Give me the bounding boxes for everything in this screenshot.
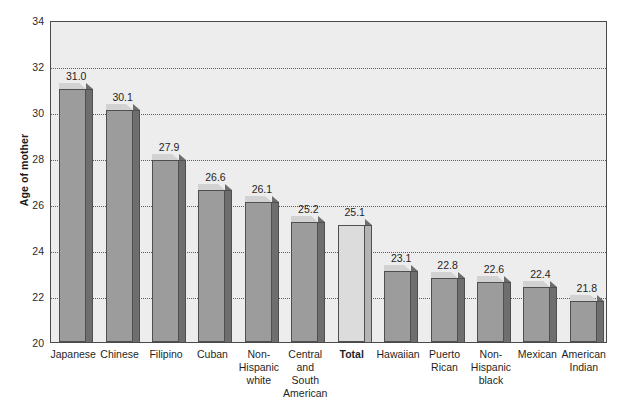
bar bbox=[570, 295, 597, 342]
bar-top-outline bbox=[291, 215, 318, 222]
bar-side-cap bbox=[133, 104, 140, 110]
bar bbox=[384, 265, 411, 342]
x-axis-category-label: AmericanIndian bbox=[555, 348, 613, 374]
x-axis-label-line: South bbox=[276, 374, 334, 387]
bar-top-outline bbox=[384, 264, 411, 271]
bar-value-label: 23.1 bbox=[375, 252, 427, 264]
bar-side-face bbox=[272, 202, 279, 342]
bar-front-face bbox=[477, 282, 504, 342]
y-axis-tick-label: 30 bbox=[0, 107, 44, 119]
bar-front-face bbox=[152, 160, 179, 342]
bar-front-face bbox=[198, 190, 225, 342]
x-axis-label-line: American bbox=[555, 348, 613, 361]
y-axis-tick-label: 34 bbox=[0, 15, 44, 27]
bar bbox=[523, 281, 550, 342]
bar-side-face bbox=[550, 287, 557, 342]
x-axis-label-line: American bbox=[276, 387, 334, 400]
bar-front-face bbox=[523, 287, 550, 342]
x-axis-label-line: Indian bbox=[555, 361, 613, 374]
bar-value-label: 25.2 bbox=[282, 203, 334, 215]
bar-value-label: 27.9 bbox=[143, 141, 195, 153]
bar-top-outline bbox=[59, 82, 86, 89]
bar-side-cap bbox=[318, 216, 325, 222]
y-axis-tick-label: 24 bbox=[0, 245, 44, 257]
bar-side-cap bbox=[504, 276, 511, 282]
bar-value-label: 26.1 bbox=[236, 183, 288, 195]
bar-front-face bbox=[384, 271, 411, 342]
bar bbox=[291, 216, 318, 342]
bar-value-label: 22.8 bbox=[422, 259, 474, 271]
bar-front-face bbox=[570, 301, 597, 342]
bar-top-outline bbox=[198, 183, 225, 190]
bar-side-cap bbox=[365, 219, 372, 225]
bar bbox=[245, 196, 272, 342]
bar bbox=[431, 272, 458, 342]
bar-front-face bbox=[106, 110, 133, 342]
bar-top-outline bbox=[338, 218, 365, 225]
bar-side-face bbox=[504, 282, 511, 342]
y-axis-tick-label: 20 bbox=[0, 337, 44, 349]
y-axis-title: Age of mother bbox=[18, 100, 30, 240]
bar-top-outline bbox=[106, 103, 133, 110]
y-axis-tick-label: 22 bbox=[0, 291, 44, 303]
bar bbox=[338, 219, 365, 342]
bar-top-outline bbox=[431, 271, 458, 278]
bar-top-outline bbox=[245, 195, 272, 202]
bar-value-label: 25.1 bbox=[329, 206, 381, 218]
bar-front-face bbox=[431, 278, 458, 342]
bar-side-cap bbox=[458, 272, 465, 278]
bar-front-face bbox=[291, 222, 318, 342]
bar-front-face bbox=[59, 89, 86, 342]
bar-value-label: 26.6 bbox=[189, 171, 241, 183]
bar-side-face bbox=[225, 190, 232, 342]
bar-top-outline bbox=[523, 280, 550, 287]
bar-value-label: 31.0 bbox=[50, 70, 102, 82]
bar-side-face bbox=[318, 222, 325, 342]
x-axis-label-line: Hispanic bbox=[462, 361, 520, 374]
bar-value-label: 22.6 bbox=[468, 263, 520, 275]
bar-top-outline bbox=[570, 294, 597, 301]
bar-side-cap bbox=[550, 281, 557, 287]
bar-side-face bbox=[179, 160, 186, 342]
x-axis-label-line: and bbox=[276, 361, 334, 374]
bar-side-cap bbox=[597, 295, 604, 301]
bar-side-cap bbox=[86, 83, 93, 89]
bar-side-face bbox=[597, 301, 604, 342]
bar-front-face bbox=[338, 225, 365, 342]
gridline bbox=[51, 68, 606, 69]
bar-side-face bbox=[86, 89, 93, 342]
bar-top-outline bbox=[477, 275, 504, 282]
bar bbox=[106, 104, 133, 342]
bar-side-cap bbox=[179, 154, 186, 160]
y-axis-tick-label: 28 bbox=[0, 153, 44, 165]
bar bbox=[198, 184, 225, 342]
bar-side-face bbox=[411, 271, 418, 342]
y-axis-tick-label: 32 bbox=[0, 61, 44, 73]
bar-side-cap bbox=[272, 196, 279, 202]
bar-side-cap bbox=[411, 265, 418, 271]
bar-side-cap bbox=[225, 184, 232, 190]
bar-side-face bbox=[133, 110, 140, 342]
bar bbox=[59, 83, 86, 342]
bar bbox=[477, 276, 504, 342]
bar-value-label: 21.8 bbox=[561, 282, 613, 294]
y-axis-tick-label: 26 bbox=[0, 199, 44, 211]
bar-chart: Age of mother 2022242628303234 31.030.12… bbox=[0, 0, 619, 410]
bar bbox=[152, 154, 179, 342]
x-axis-label-line: black bbox=[462, 374, 520, 387]
bar-front-face bbox=[245, 202, 272, 342]
bar-value-label: 22.4 bbox=[514, 268, 566, 280]
bar-side-face bbox=[365, 225, 372, 342]
plot-area: 31.030.127.926.626.125.225.123.122.822.6… bbox=[50, 21, 607, 343]
bar-top-outline bbox=[152, 153, 179, 160]
bar-value-label: 30.1 bbox=[97, 91, 149, 103]
bar-side-face bbox=[458, 278, 465, 342]
